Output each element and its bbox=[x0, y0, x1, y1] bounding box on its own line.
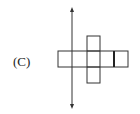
arrow-down-icon bbox=[70, 104, 74, 109]
symmetry-axis-arrow bbox=[70, 7, 74, 109]
horizontal-strip bbox=[58, 51, 128, 67]
vertical-column bbox=[87, 36, 100, 83]
arrow-up-icon bbox=[70, 7, 74, 12]
cube-net-figure bbox=[0, 0, 140, 114]
